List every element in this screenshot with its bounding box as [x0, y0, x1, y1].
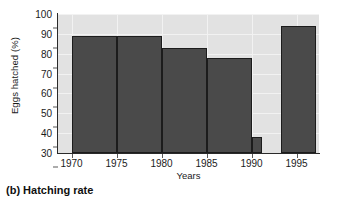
y-tick-label: 90 — [41, 28, 52, 39]
y-axis-tick-labels: 30405060708090100 — [24, 14, 52, 153]
y-tick-label: 70 — [41, 68, 52, 79]
bar — [162, 48, 207, 153]
gridline-horizontal — [58, 14, 319, 15]
bar — [252, 137, 263, 153]
x-tick-label: 1975 — [105, 158, 127, 169]
x-tick-label: 1985 — [195, 158, 217, 169]
bar — [117, 36, 162, 153]
y-tick-label: 100 — [35, 9, 52, 20]
bar — [281, 26, 316, 153]
x-tick-label: 1990 — [240, 158, 262, 169]
gridline-vertical — [252, 14, 253, 153]
x-tick-label: 1970 — [60, 158, 82, 169]
y-axis-title: Eggs hatched (%) — [4, 0, 26, 150]
bar — [72, 36, 117, 153]
x-tick-label: 1995 — [285, 158, 307, 169]
y-tick-label: 80 — [41, 48, 52, 59]
y-tick-label: 60 — [41, 88, 52, 99]
plot-area — [58, 14, 319, 153]
figure-hatching-rate: Eggs hatched (%) 30405060708090100 19701… — [0, 0, 337, 206]
gridline-horizontal — [58, 34, 319, 35]
y-tick-label: 30 — [41, 148, 52, 159]
x-tick-label: 1980 — [150, 158, 172, 169]
figure-caption: (b) Hatching rate — [6, 184, 93, 196]
x-axis-title: Years — [58, 170, 319, 181]
y-tick-label: 40 — [41, 128, 52, 139]
y-axis-title-text: Eggs hatched (%) — [10, 36, 21, 113]
y-axis-line — [57, 13, 58, 154]
y-tick-label: 50 — [41, 108, 52, 119]
bar — [207, 58, 252, 153]
